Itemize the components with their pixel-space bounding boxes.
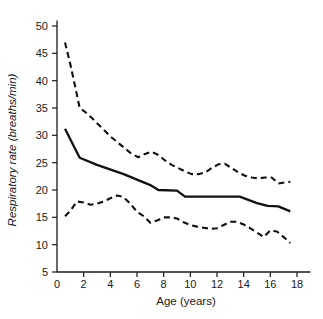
chart-figure: 5101520253035404550 024681012141618 Resp… [0, 0, 323, 319]
y-axis-tick-label: 20 [36, 184, 48, 196]
x-axis-tick-label: 6 [134, 278, 140, 290]
y-axis-tick-label: 40 [36, 75, 48, 87]
x-axis-title: Age (years) [156, 295, 216, 307]
x-axis-tick-label: 12 [211, 278, 223, 290]
y-axis-tick-label: 35 [36, 102, 48, 114]
y-axis-tick-label: 50 [36, 20, 48, 32]
x-axis-tick-label: 4 [107, 278, 113, 290]
y-axis-tick-label: 25 [36, 157, 48, 169]
y-axis-tick-label: 15 [36, 211, 48, 223]
respiratory-rate-centile-chart: 5101520253035404550 024681012141618 Resp… [0, 0, 323, 319]
y-axis-tick-label: 5 [42, 266, 48, 278]
y-axis-title: Respiratory rate (breaths/min) [6, 73, 18, 226]
x-axis-tick-label: 14 [238, 278, 250, 290]
y-axis-tick-label: 10 [36, 239, 48, 251]
chart-background [0, 0, 323, 319]
x-axis-tick-label: 0 [54, 278, 60, 290]
x-axis-tick-label: 16 [264, 278, 276, 290]
x-axis-tick-label: 8 [161, 278, 167, 290]
x-axis-tick-label: 2 [81, 278, 87, 290]
x-axis-tick-label: 10 [184, 278, 196, 290]
y-axis-tick-label: 45 [36, 47, 48, 59]
y-axis-tick-label: 30 [36, 129, 48, 141]
x-axis-tick-label: 18 [291, 278, 303, 290]
